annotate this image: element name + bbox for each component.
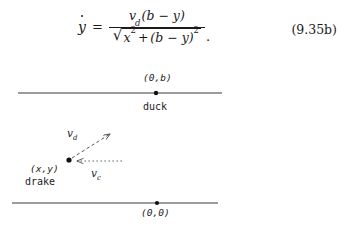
drake-point-marker (66, 157, 71, 162)
numerator-expression: (b − y) (142, 8, 185, 23)
duck-point-marker (154, 91, 158, 95)
equation-punctuation: . (205, 29, 210, 46)
vector-vd-label: vd (67, 128, 77, 139)
vector-vd-subscript: d (73, 134, 77, 142)
origin-coordinate-label: (0,0) (141, 208, 170, 218)
drake-coordinate-label: (x,y) (30, 164, 59, 174)
equation-expression: y = vd(b − y) √ x2+(b − y)2 . (78, 8, 210, 46)
equation-lhs-symbol: y (78, 19, 86, 35)
square-root: √ x2+(b − y)2 (113, 29, 201, 46)
dot-accent-icon (81, 15, 83, 17)
fraction-numerator: vd(b − y) (125, 8, 189, 27)
vector-vc-subscript: c (97, 174, 101, 182)
drake-actor-label: drake (25, 177, 55, 187)
figure-page: y = vd(b − y) √ x2+(b − y)2 . (9.35b) (0, 0, 353, 225)
radical-sign-icon: √ (113, 28, 123, 45)
vector-vc-label: vc (91, 168, 101, 179)
equation-relation: = (88, 19, 109, 34)
radicand-first-exponent: 2 (130, 25, 135, 35)
vector-vd-arrow (72, 134, 110, 158)
equation-fraction: vd(b − y) √ x2+(b − y)2 (109, 8, 205, 46)
radicand: x2+(b − y)2 (122, 28, 201, 45)
duck-coordinate-label: (0,b) (143, 73, 172, 83)
duck-actor-label: duck (143, 102, 167, 112)
radicand-operator: + (136, 30, 150, 45)
fraction-denominator: √ x2+(b − y)2 (109, 28, 205, 46)
origin-point-marker (155, 201, 159, 205)
pursuit-diagram: (0,b) duck (x,y) drake vd vc (0,0) (0, 60, 353, 225)
diagram-canvas (0, 60, 353, 225)
radicand-second-term: (b − y) (150, 30, 193, 45)
radicand-second-exponent: 2 (194, 25, 199, 35)
equation-lhs: y (78, 19, 88, 35)
equation-block: y = vd(b − y) √ x2+(b − y)2 . (9.35b) (0, 8, 353, 56)
equation-number: (9.35b) (291, 22, 337, 37)
